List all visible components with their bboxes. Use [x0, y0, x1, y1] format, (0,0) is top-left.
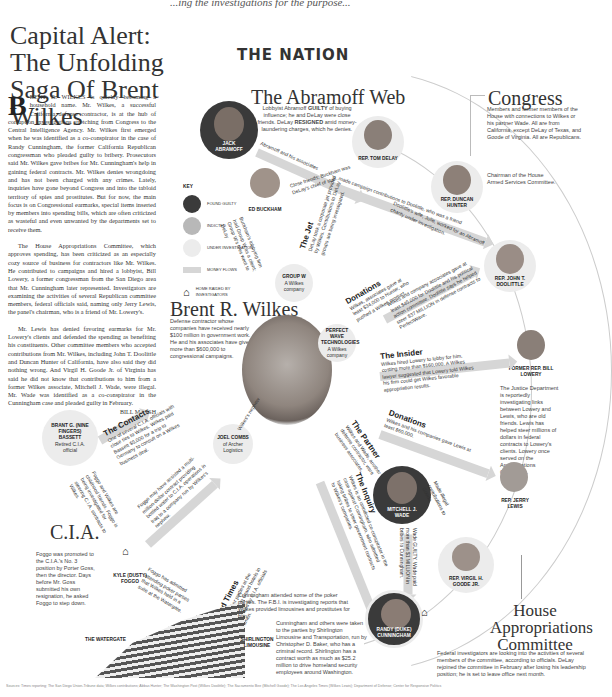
house-icon: ⌂	[183, 286, 190, 298]
foggo-home-raided-icon: ⌂	[122, 545, 129, 557]
brant-bassett-node[interactable]: BRANT G. (NINE FINGERS) BASSETT Retired …	[42, 410, 98, 466]
legend-found-guilty: FOUND GUILTY	[183, 193, 263, 215]
cunningham-photo	[381, 599, 411, 629]
jerry-lewis-photo	[500, 462, 528, 492]
group-w-node[interactable]: GROUP W A Wilkes company	[275, 264, 313, 302]
dropcap: B	[8, 95, 27, 117]
mitchell-wade-photo	[387, 472, 417, 504]
tom-delay-photo	[364, 120, 392, 150]
cunningham-parties-note: Cunningham attended some of the poker pa…	[238, 592, 353, 620]
joel-combs-node[interactable]: JOEL COMBS of Archer Logistics	[213, 424, 253, 464]
wilkes-desc: Defense contractor whose companies have …	[170, 318, 252, 360]
top-clipped-text: ...ing the investigations for the purpos…	[170, 0, 351, 8]
legend-key: KEY FOUND GUILTY INDICTED UNDER INVESTIG…	[183, 184, 263, 303]
appropriations-desc: Federal investigators are looking into t…	[437, 650, 587, 678]
article-paragraph-3: Mr. Lewis has denied favoring earmarks f…	[8, 325, 156, 408]
duncan-hunter-photo	[443, 165, 471, 195]
virgil-goode-node[interactable]: REP. VIRGIL H. GOODE JR.	[438, 537, 494, 593]
cunningham-node[interactable]: RANDY (DUKE) CUNNINGHAM	[365, 590, 423, 648]
perfect-wave-node[interactable]: PERFECT WAVE TECHNOLOGIES A Wilkes compa…	[318, 324, 356, 362]
abramoff-web-desc: Lobbyist Abramoff GUILTY of buying influ…	[257, 105, 357, 133]
appropriations-title: House Appropriations Committee	[490, 602, 580, 653]
congress-desc: Members and former members of the House …	[487, 106, 582, 141]
appropriations-leader-line	[521, 555, 522, 599]
cunningham-home-raided-icon: ⌂	[421, 606, 428, 618]
combs-note: Wilkes's nephew	[236, 397, 261, 432]
cia-title: C.I.A.	[50, 521, 99, 544]
legend-under-investigation: UNDER INVESTIGATION	[183, 237, 263, 259]
cia-desc: Foggo was promoted to the C.I.A.'s No. 3…	[36, 551, 96, 607]
article-paragraph-2: The House Appropriations Committee, whic…	[8, 242, 156, 317]
source-line: Sources: Times reporting; The San Diego …	[6, 684, 591, 688]
section-label: THE NATION	[237, 46, 349, 64]
legend-indicted: INDICTED	[183, 215, 263, 237]
john-doolittle-photo	[496, 244, 524, 274]
hunter-note: Chairman of the House Armed Services Com…	[487, 172, 557, 186]
watergate-label: THE WATERGATE	[85, 637, 126, 643]
article-body: BRENT R. WILKES is quickly becoming a ho…	[8, 93, 156, 416]
bill-lowery-photo	[517, 330, 545, 360]
congress-bracket	[470, 95, 485, 156]
jack-abramoff-photo	[214, 107, 244, 141]
mitchell-wade-node[interactable]: MITCHELL J. WADE	[373, 466, 431, 524]
jerry-lewis-label: REP. JERRY LEWIS	[495, 498, 535, 510]
foggo-poker-flow: Foggo has admitted attending poker parti…	[137, 566, 198, 616]
legend-money-flows: MONEY FLOWS	[183, 259, 263, 281]
duncan-hunter-node[interactable]: REP. DUNCAN HUNTER	[431, 161, 483, 213]
article-paragraph-1: RENT R. WILKES is quickly becoming a hou…	[8, 93, 156, 233]
john-doolittle-node[interactable]: REP. JOHN T. DOOLITTLE	[484, 240, 536, 292]
tom-delay-node[interactable]: REP. TOM DELAY	[352, 116, 404, 168]
virgil-goode-photo	[452, 543, 480, 571]
shirlington-label: SHIRLINGTON LIMOUSINE	[240, 637, 274, 649]
wade-flow: Wade GUILTY. Wade paid more than $1 MILL…	[399, 528, 419, 598]
jack-abramoff-node[interactable]: JACK ABRAMOFF	[200, 101, 258, 159]
shirlington-note: Cunningham and others were taken to the …	[276, 620, 368, 676]
